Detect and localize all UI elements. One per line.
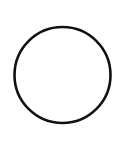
circle-outline-icon bbox=[15, 27, 111, 123]
canvas bbox=[0, 0, 115, 168]
circle-graphic bbox=[0, 0, 115, 168]
